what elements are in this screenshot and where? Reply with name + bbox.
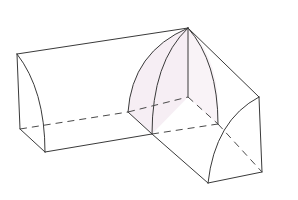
hidden-right-base-diagonal: [218, 124, 262, 172]
left-quarter-arc: [17, 54, 45, 152]
left-bottom-front-edge: [20, 129, 45, 152]
hidden-base-front-edge: [152, 124, 218, 134]
right-vertical-edge: [259, 97, 262, 172]
hidden-back-bottom-edge: [20, 112, 128, 129]
solid-geometry-figure: [0, 0, 298, 200]
figure-canvas: [0, 0, 298, 200]
diagonal-front-edge: [152, 134, 208, 183]
front-bottom-edge: [45, 134, 152, 152]
right-bottom-edge: [208, 172, 262, 183]
left-vertical-edge: [17, 54, 20, 129]
